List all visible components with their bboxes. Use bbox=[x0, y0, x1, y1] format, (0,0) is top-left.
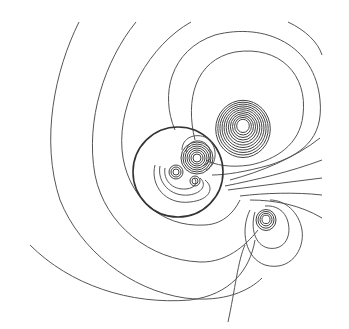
contour-ring bbox=[262, 215, 270, 223]
contour-ring bbox=[187, 148, 207, 168]
right-lobe-envelope bbox=[168, 31, 322, 218]
contour-svg bbox=[0, 0, 349, 329]
contour-ring bbox=[256, 210, 276, 231]
lower-right-rings bbox=[256, 210, 276, 231]
contour-ring bbox=[173, 169, 179, 175]
contour-ring bbox=[181, 142, 213, 174]
lower-right-lobe bbox=[245, 200, 302, 266]
right-lobe-rings bbox=[216, 100, 271, 157]
contour-plot bbox=[0, 0, 349, 329]
contour-ring bbox=[237, 119, 250, 132]
contour-ring bbox=[193, 154, 201, 162]
